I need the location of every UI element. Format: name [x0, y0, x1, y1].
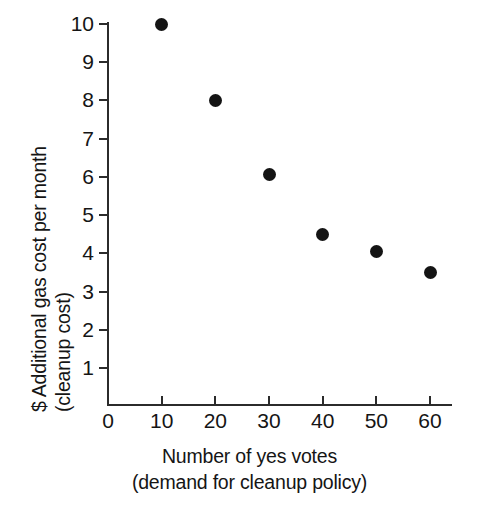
x-tick-mark [161, 396, 163, 405]
y-tick-label-text: 9 [50, 51, 94, 72]
y-tick-label-text: 10 [50, 13, 94, 34]
y-tick-label: 6 [48, 166, 94, 188]
data-point [263, 168, 276, 181]
x-tick-label: 40 [300, 410, 346, 431]
data-point [155, 18, 168, 31]
y-tick-label-text: 2 [50, 319, 94, 340]
y-tick-label-text: 6 [50, 166, 94, 187]
x-tick-label: 60 [407, 410, 453, 431]
y-tick-mark [99, 367, 108, 369]
data-point [424, 266, 437, 279]
y-tick-mark [99, 214, 108, 216]
y-tick-label: 8 [48, 89, 94, 111]
x-axis-title: Number of yes votes (demand for cleanup … [0, 443, 499, 495]
y-tick-label: 10 [48, 13, 94, 35]
x-tick-label: 10 [139, 410, 185, 431]
x-axis-title-line1: Number of yes votes [0, 443, 499, 469]
x-tick-mark [322, 396, 324, 405]
x-tick-mark [429, 396, 431, 405]
y-tick-label: 5 [48, 204, 94, 226]
y-tick-mark [99, 252, 108, 254]
data-point [316, 228, 329, 241]
y-axis-title-line2: (cleanup cost) [52, 292, 75, 412]
y-tick-label: 9 [48, 51, 94, 73]
y-tick-mark [99, 329, 108, 331]
y-tick-label: 4 [48, 242, 94, 264]
y-tick-label: 1 [48, 357, 94, 379]
y-tick-label: 7 [48, 128, 94, 150]
y-tick-label-text: 4 [50, 242, 94, 263]
x-tick-label: 20 [192, 410, 238, 431]
x-tick-label: 30 [246, 410, 292, 431]
x-tick-label: 0 [85, 410, 131, 431]
x-axis-title-line2: (demand for cleanup policy) [0, 469, 499, 495]
y-tick-mark [99, 61, 108, 63]
y-tick-label-text: 3 [50, 281, 94, 302]
y-tick-label-text: 5 [50, 204, 94, 225]
data-point [370, 245, 383, 258]
y-tick-label-text: 1 [50, 357, 94, 378]
x-tick-mark [375, 396, 377, 405]
x-tick-mark [107, 396, 109, 405]
x-tick-mark [214, 396, 216, 405]
x-axis-line [107, 404, 452, 406]
y-tick-label: 2 [48, 319, 94, 341]
x-tick-label: 50 [353, 410, 399, 431]
y-tick-label-text: 8 [50, 89, 94, 110]
y-tick-mark [99, 291, 108, 293]
y-tick-label: 3 [48, 281, 94, 303]
y-tick-mark [99, 176, 108, 178]
y-tick-mark [99, 138, 108, 140]
y-tick-label-text: 7 [50, 128, 94, 149]
data-point [209, 94, 222, 107]
y-tick-mark [99, 23, 108, 25]
y-tick-mark [99, 99, 108, 101]
x-tick-mark [268, 396, 270, 405]
scatter-plot-figure: $ Additional gas cost per month (cleanup… [0, 0, 499, 508]
